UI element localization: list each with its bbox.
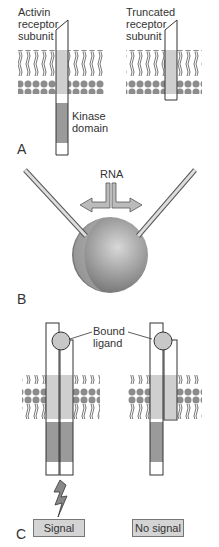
rna-label: RNA	[100, 168, 123, 180]
label-line: subunit	[126, 30, 175, 42]
diagram-canvas	[0, 0, 219, 547]
label-line: Bound	[93, 325, 125, 337]
receptor-dimer-active	[46, 323, 73, 475]
label-line: subunit	[18, 30, 58, 42]
lightning-icon	[54, 480, 67, 517]
label-line: Activin	[18, 6, 58, 18]
membrane-a-right	[126, 50, 202, 94]
signal-box: Signal	[33, 519, 85, 537]
label-line: Truncated	[126, 6, 175, 18]
label-line: receptor	[18, 18, 58, 30]
oocyte	[72, 217, 148, 293]
label-line: domain	[72, 122, 108, 134]
micropipette-left	[25, 170, 86, 236]
panel-letter-b: B	[17, 291, 26, 307]
bound-ligand-label: Bound ligand	[93, 325, 125, 349]
label-line: Kinase	[72, 110, 108, 122]
label-line: ligand	[93, 337, 125, 349]
panel-letter-a: A	[17, 141, 26, 157]
receptor-dimer-inactive	[150, 323, 177, 475]
label-line: receptor	[126, 18, 175, 30]
kinase-domain-label: Kinase domain	[72, 110, 108, 134]
truncated-receptor-label: Truncated receptor subunit	[126, 6, 175, 42]
no-signal-box: No signal	[132, 519, 184, 537]
full-receptor-label: Activin receptor subunit	[18, 6, 58, 42]
rna-arrows	[80, 183, 142, 212]
micropipette-right	[138, 170, 195, 236]
panel-letter-c: C	[16, 526, 26, 542]
